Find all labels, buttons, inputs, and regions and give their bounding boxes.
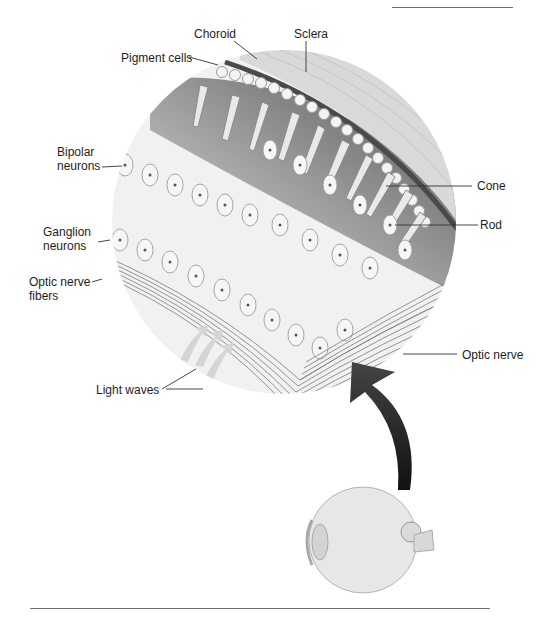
label-cone: Cone [477, 179, 506, 193]
label-bipolar-line1: Bipolar [57, 145, 100, 159]
label-light-waves: Light waves [96, 383, 159, 397]
retina-illustration [0, 0, 549, 617]
label-optic-fibers-line1: Optic nerve [29, 275, 90, 289]
label-optic-nerve-fibers: Optic nerve fibers [29, 275, 90, 303]
magnify-arrow [350, 362, 412, 490]
label-pigment-cells: Pigment cells [121, 51, 192, 65]
eyeball [307, 487, 434, 593]
label-sclera: Sclera [294, 27, 328, 41]
label-rod: Rod [480, 218, 502, 232]
label-bipolar-neurons: Bipolar neurons [57, 145, 100, 173]
label-choroid: Choroid [194, 27, 236, 41]
label-optic-fibers-line2: fibers [29, 289, 90, 303]
label-bipolar-line2: neurons [57, 159, 100, 173]
label-ganglion-line2: neurons [43, 239, 91, 253]
label-ganglion-line1: Ganglion [43, 225, 91, 239]
label-ganglion-neurons: Ganglion neurons [43, 225, 91, 253]
label-optic-nerve: Optic nerve [462, 348, 523, 362]
